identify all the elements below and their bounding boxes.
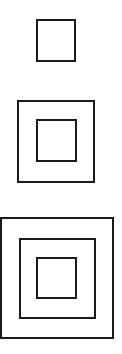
group-two-squares <box>18 101 94 182</box>
square-outer <box>18 101 94 182</box>
square-inner <box>37 258 76 298</box>
group-one-square <box>37 20 75 61</box>
square-inner <box>37 120 76 161</box>
nested-squares-diagram <box>0 0 122 354</box>
group-three-squares <box>1 218 113 338</box>
square-outer <box>37 20 75 61</box>
square-middle <box>20 239 95 318</box>
square-outer <box>1 218 113 338</box>
